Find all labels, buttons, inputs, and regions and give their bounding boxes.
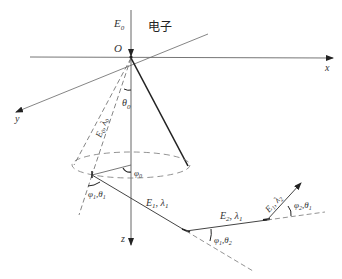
cone-edge-right [131, 58, 188, 166]
e0-label: E0 [113, 17, 125, 32]
segment-1 [92, 175, 186, 231]
y-axis [16, 34, 208, 112]
angle2-arc [210, 229, 211, 241]
phi0-label: φ0 [134, 168, 142, 179]
electron-label: 电子 [148, 20, 172, 34]
angle1-label: φ1,θ1 [88, 189, 106, 200]
cone-edge-left [74, 58, 131, 165]
angle3-label: φ2,θ1 [294, 200, 312, 211]
origin-point [129, 55, 132, 58]
z-axis-label: z [120, 233, 125, 244]
y-axis-label: y [14, 113, 20, 124]
theta0-label: θ0 [122, 97, 131, 111]
x-axis-label: x [324, 62, 330, 73]
scattering-diagram: x y E0 电子 O z θ0 φ0 E0, λ0 φ1,θ1 E1, λ1 … [0, 0, 342, 279]
angle2-label: φ1,θ2 [214, 235, 232, 246]
segment-2-label: E2, λ1 [219, 210, 242, 223]
angle3-arc [288, 206, 291, 216]
cone-edge-label: E0, λ0 [93, 117, 110, 140]
phi0-arc [123, 168, 131, 172]
segment-2-extension [267, 212, 325, 220]
angle1-arc [88, 182, 100, 186]
x-axis [30, 57, 333, 58]
theta0-arc [124, 89, 131, 90]
segment-1-label: E1, λ1 [145, 197, 168, 210]
origin-label: O [114, 42, 122, 54]
segment-1-extension [186, 231, 253, 271]
cone-edge-front [92, 58, 131, 175]
